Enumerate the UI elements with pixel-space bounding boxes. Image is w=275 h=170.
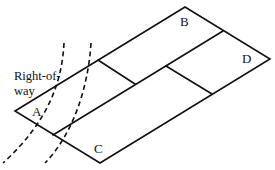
lot-label-b: B — [180, 14, 189, 29]
parcel-diagram: Right-of- way A B C D — [0, 0, 275, 170]
right-of-way-boundary-left — [3, 43, 64, 163]
parcel-outline — [15, 7, 270, 163]
lot-label-c: C — [94, 141, 103, 156]
center-dividing-line — [53, 31, 223, 135]
right-of-way-boundary-right — [45, 43, 91, 163]
lot-label-a: A — [32, 104, 42, 119]
cross-line-right — [166, 66, 212, 94]
right-of-way-label-line2: way — [14, 84, 36, 98]
cross-line-left — [98, 60, 135, 84]
right-of-way-label-line1: Right-of- — [14, 69, 61, 83]
lot-label-d: D — [242, 51, 251, 66]
